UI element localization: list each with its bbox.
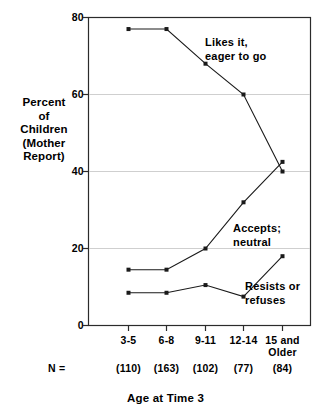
data-point-marker <box>281 254 285 258</box>
data-point-marker <box>127 291 131 295</box>
annotation-likes-line-1: Likes it, <box>205 36 267 50</box>
data-point-marker <box>127 27 131 31</box>
annotation-accepts-line-1: Accepts; <box>233 222 281 236</box>
data-point-marker <box>204 247 208 251</box>
series-annotation-likes-it: Likes it, eager to go <box>205 36 267 63</box>
data-point-marker <box>165 27 169 31</box>
x-tick-label-15-and-older-line1: 15 and <box>256 334 309 346</box>
data-point-marker <box>242 200 246 204</box>
series-annotation-resists-refuses: Resists or refuses <box>245 280 300 307</box>
annotation-resists-line-1: Resists or <box>245 280 300 294</box>
line-chart-figure: Percent of Children (Mother Report) 80 6… <box>0 0 331 413</box>
data-point-marker <box>127 268 131 272</box>
data-point-marker <box>281 160 285 164</box>
x-axis-title: Age at Time 3 <box>0 392 331 404</box>
data-point-marker <box>242 93 246 97</box>
annotation-accepts-line-2: neutral <box>233 236 281 250</box>
data-point-marker <box>165 268 169 272</box>
x-tick-label-15-and-older: 15 and Older <box>256 334 309 358</box>
x-tick-label-15-and-older-line2: Older <box>256 346 309 358</box>
annotation-resists-line-2: refuses <box>245 294 300 308</box>
data-point-marker <box>204 283 208 287</box>
n-value-15-and-older: (84) <box>258 362 307 374</box>
annotation-likes-line-2: eager to go <box>205 50 267 64</box>
series-annotation-accepts-neutral: Accepts; neutral <box>233 222 281 249</box>
n-legend-label: N = <box>48 362 65 374</box>
data-point-marker <box>281 170 285 174</box>
data-point-marker <box>165 291 169 295</box>
